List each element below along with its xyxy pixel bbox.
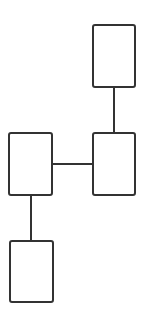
node-mid-left (8, 132, 53, 196)
node-bottom-left (9, 240, 54, 303)
edge-mid-left-to-bottom-left (30, 195, 32, 241)
node-top-right (92, 24, 136, 88)
edge-top-right-to-mid-right (113, 87, 115, 133)
edge-mid-left-to-mid-right (52, 163, 93, 165)
node-mid-right (92, 132, 136, 196)
diagram-canvas (0, 0, 145, 326)
